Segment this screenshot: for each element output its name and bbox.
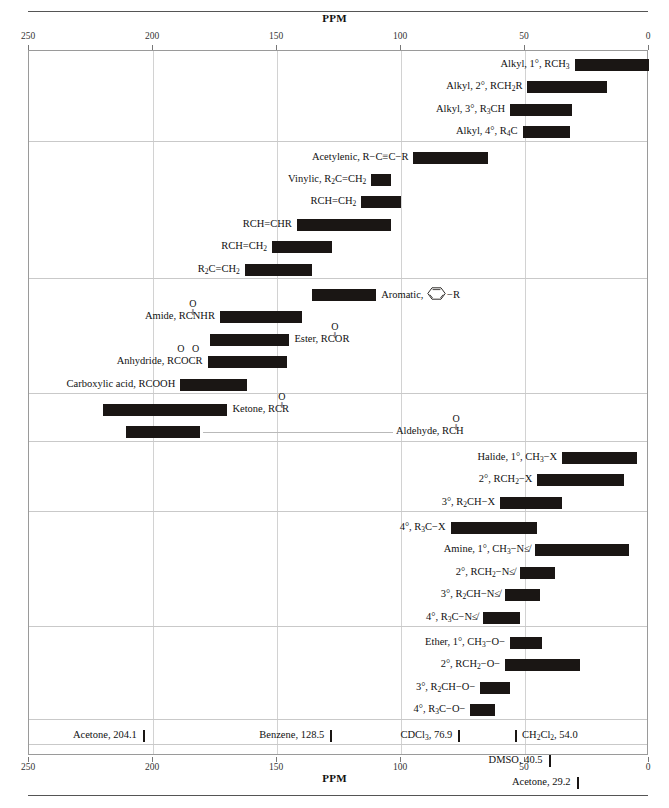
- solvent-reference-label: Acetone, 29.2: [512, 776, 571, 787]
- axis-tick-label: 100: [393, 31, 407, 41]
- shift-range-label: Acetylenic, R−C≡C−R: [312, 150, 409, 163]
- shift-range-bar: [480, 682, 510, 694]
- shift-range-bar: [413, 152, 487, 164]
- axis-tick-mark: [648, 45, 649, 50]
- shift-range-bar: [272, 241, 332, 253]
- shift-range-bar: [451, 522, 538, 534]
- shift-range-label: Vinylic, R2C=CH2: [288, 172, 366, 188]
- solvent-reference-label: DMSO, 40.5: [489, 754, 543, 765]
- bottom-horizontal-rule: [28, 795, 648, 796]
- shift-range-label: Amide, RCO‖NHR: [145, 309, 215, 322]
- shift-range-label: 4°, R3C−X: [400, 520, 446, 536]
- shift-range-label: 4°, R3C−O−: [414, 702, 466, 718]
- shift-range-row: 2°, RCH2−O−: [29, 654, 647, 676]
- shift-range-bar: [505, 659, 579, 671]
- shift-range-bar: [562, 452, 636, 464]
- shift-range-bar: [210, 334, 289, 346]
- shift-range-bar: [483, 612, 520, 624]
- group-divider-line: [29, 719, 647, 720]
- ppm-axis-title-top: PPM: [0, 12, 669, 24]
- shift-range-bar: [312, 289, 376, 301]
- shift-range-bar: [510, 104, 572, 116]
- shift-range-bar: [470, 704, 495, 716]
- group-divider-line: [29, 511, 647, 512]
- solvent-reference-marker: [549, 755, 551, 767]
- shift-range-row: RCH=CHR: [29, 214, 647, 236]
- group-divider-line: [29, 278, 647, 279]
- solvent-reference-row: Acetone, 29.2: [29, 772, 647, 794]
- shift-range-bar: [510, 637, 542, 649]
- shift-range-label: 2°, RCH2−N≰: [456, 565, 515, 581]
- shift-range-label: RCH=CH2: [221, 239, 267, 255]
- solvent-reference-row: DMSO, 40.5: [29, 750, 647, 772]
- shift-range-bar: [537, 474, 624, 486]
- shift-range-row: Acetylenic, R−C≡C−R: [29, 147, 647, 169]
- shift-range-row: 3°, R2CH−O−: [29, 677, 647, 699]
- shift-range-bar: [180, 379, 247, 391]
- shift-range-bar: [500, 497, 562, 509]
- shift-range-bar: [527, 81, 606, 93]
- shift-range-row: Halide, 1°, CH3−X: [29, 447, 647, 469]
- shift-range-row: Anhydride, RCOOCOR: [29, 351, 647, 373]
- shift-range-row: Ether, 1°, CH3−O−: [29, 632, 647, 654]
- label-leader-line: [203, 432, 393, 433]
- shift-range-row: Alkyl, 2°, RCH2R: [29, 76, 647, 98]
- solvent-reference-label: CH2Cl2, 54.0: [522, 729, 578, 742]
- shift-range-bar: [520, 567, 555, 579]
- shift-range-label: 3°, R2CH−O−: [416, 680, 475, 696]
- shift-range-label: Halide, 1°, CH3−X: [477, 450, 557, 466]
- shift-range-bar: [208, 356, 287, 368]
- axis-tick-label: 150: [269, 31, 283, 41]
- group-divider-line: [29, 393, 647, 394]
- shift-range-label: 4°, R3C−N≰: [426, 610, 478, 626]
- shift-range-label: 3°, R2CH−X: [442, 495, 496, 511]
- shift-range-label: Alkyl, 3°, R3CH: [436, 102, 505, 118]
- shift-range-bar: [371, 174, 391, 186]
- group-divider-line: [29, 441, 647, 442]
- shift-range-bar: [575, 59, 649, 71]
- shift-range-row: Ketone, RCO‖R: [29, 399, 647, 421]
- axis-tick-label: 250: [21, 31, 35, 41]
- shift-range-row: 4°, R3C−X: [29, 517, 647, 539]
- shift-range-label: Ketone, RCO‖R: [232, 402, 289, 415]
- group-divider-line: [29, 626, 647, 627]
- shift-range-bar: [297, 219, 391, 231]
- shift-range-label: RCH=CHR: [243, 217, 292, 230]
- shift-range-bar: [361, 196, 401, 208]
- shift-range-label: Alkyl, 4°, R4C: [456, 124, 518, 140]
- shift-range-label: R2C=CH2: [198, 262, 240, 278]
- solvent-reference-marker: [515, 730, 517, 742]
- group-divider-line: [29, 744, 647, 745]
- shift-range-label: Ester, RCO‖OR: [294, 332, 349, 345]
- shift-range-bar: [505, 589, 540, 601]
- shift-range-label: Carboxylic acid, RCOOH: [66, 377, 175, 390]
- shift-range-label: 3°, R2CH−N≰: [441, 587, 500, 603]
- shift-range-label: Alkyl, 1°, RCH3: [500, 57, 569, 73]
- group-divider-line: [29, 141, 647, 142]
- shift-range-bar: [220, 311, 302, 323]
- shift-range-bar: [535, 544, 629, 556]
- shift-range-row: Vinylic, R2C=CH2: [29, 169, 647, 191]
- shift-range-row: 3°, R2CH−N≰: [29, 584, 647, 606]
- axis-tick-label: 50: [519, 31, 529, 41]
- axis-tick-label: 0: [646, 31, 651, 41]
- shift-range-label: Ether, 1°, CH3−O−: [425, 635, 505, 651]
- shift-range-bar: [126, 426, 200, 438]
- shift-range-label: 2°, RCH2−X: [479, 472, 533, 488]
- shift-range-row: RCH=CH2: [29, 191, 647, 213]
- shift-range-label: Aldehyde, RCO‖H: [396, 424, 464, 437]
- shift-range-label: Aromatic, −R: [381, 287, 460, 301]
- shift-range-label: RCH=CH2: [310, 194, 356, 210]
- shift-range-label: Anhydride, RCOOCOR: [117, 354, 203, 367]
- solvent-reference-marker: [577, 777, 579, 789]
- shift-range-row: Alkyl, 1°, RCH3: [29, 54, 647, 76]
- shift-range-label: Alkyl, 2°, RCH2R: [446, 79, 522, 95]
- axis-tick-label: 200: [145, 31, 159, 41]
- shift-range-label: 2°, RCH2−O−: [441, 657, 500, 673]
- shift-range-row: Alkyl, 3°, R3CH: [29, 99, 647, 121]
- shift-range-row: Ester, RCO‖OR: [29, 329, 647, 351]
- shift-range-row: 2°, RCH2−X: [29, 469, 647, 491]
- shift-range-row: 2°, RCH2−N≰: [29, 562, 647, 584]
- shift-range-row: RCH=CH2: [29, 236, 647, 258]
- shift-range-row: Amine, 1°, CH3−N≰: [29, 539, 647, 561]
